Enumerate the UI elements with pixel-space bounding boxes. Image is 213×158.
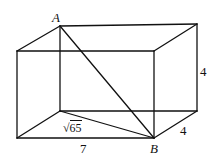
label-depth: 4: [180, 124, 187, 137]
edge-top-left: [17, 26, 60, 51]
edge-top-right: [154, 24, 197, 51]
prism-diagram: A B 4 4 7 √65: [0, 0, 213, 158]
label-point-a: A: [52, 11, 60, 24]
radicand: 65: [70, 120, 82, 135]
label-height: 4: [200, 65, 207, 78]
label-point-b: B: [150, 142, 158, 155]
label-diagonal: √65: [63, 122, 82, 134]
label-length: 7: [80, 142, 87, 155]
edge-bottom-left: [17, 111, 60, 138]
edge-top-back: [60, 24, 197, 26]
edge-bottom-right: [154, 111, 197, 138]
radical-symbol: √: [63, 121, 70, 135]
